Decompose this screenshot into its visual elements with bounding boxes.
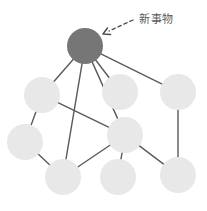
node-left-lower[interactable] bbox=[45, 159, 81, 195]
node-right-upper[interactable] bbox=[160, 74, 196, 110]
annotation-arrow-layer bbox=[103, 20, 133, 34]
node-center-lower[interactable] bbox=[100, 159, 136, 195]
nodes-layer bbox=[7, 28, 196, 195]
edge-n-center-mid-to-n-right-lower bbox=[138, 145, 165, 166]
edge-n-left-mid-to-n-left-lower bbox=[37, 153, 51, 166]
edge-n-left-upper-to-n-left-mid bbox=[30, 110, 36, 127]
edge-new-thing-node-to-n-left-upper bbox=[53, 58, 75, 83]
node-right-lower[interactable] bbox=[160, 157, 196, 193]
edge-n-left-upper-to-n-center-mid bbox=[56, 102, 110, 128]
annotation-dashed-line bbox=[109, 20, 133, 31]
node-left-upper[interactable] bbox=[24, 77, 60, 113]
diagram-canvas: 新事物 bbox=[0, 0, 207, 211]
node-left-mid[interactable] bbox=[7, 124, 43, 160]
network-diagram bbox=[0, 0, 207, 211]
edge-new-thing-node-to-n-center-upper bbox=[95, 59, 111, 80]
highlighted-new-thing-node[interactable] bbox=[67, 28, 103, 64]
edge-new-thing-node-to-n-left-lower bbox=[66, 62, 83, 161]
node-center-upper[interactable] bbox=[102, 74, 138, 110]
node-center-mid[interactable] bbox=[107, 117, 143, 153]
edges-layer bbox=[30, 53, 178, 168]
new-thing-annotation-label: 新事物 bbox=[139, 14, 174, 25]
